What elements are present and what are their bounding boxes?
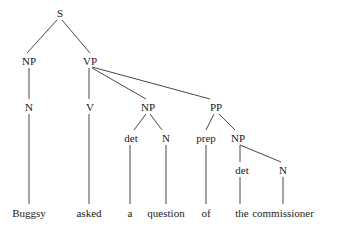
tree-nodes: SNPVPNVNPPPdetNprepNPdetNBuggsyaskedaque… [12,7,314,219]
node-PP: PP [210,101,222,113]
node-w6: the [235,207,249,219]
node-NP2: NP [141,101,155,113]
node-N2: N [162,132,170,144]
node-det2: det [235,164,248,176]
edge-NP2-N2 [150,114,162,130]
edge-S-VP [62,20,90,53]
node-prep: prep [196,132,216,144]
edge-VP-PP [92,67,210,99]
node-w1: Buggsy [12,207,46,219]
edge-S-NP1 [27,20,57,53]
edge-VP-NP2 [92,68,146,99]
edge-NP2-det1 [134,114,146,130]
edge-PP-NP3 [219,114,235,130]
node-det1: det [124,132,137,144]
node-S: S [57,7,63,19]
node-w3: a [128,207,133,219]
node-w7: commissioner [252,207,314,219]
edge-NP3-N3 [240,145,281,162]
syntax-tree-diagram: SNPVPNVNPPPdetNprepNPdetNBuggsyaskedaque… [0,0,350,233]
node-w2: asked [76,207,102,219]
node-N3: N [279,164,287,176]
node-N1: N [25,101,33,113]
node-w4: question [147,207,185,219]
node-w5: of [201,207,211,219]
node-V: V [86,101,94,113]
node-NP3: NP [231,132,245,144]
node-NP1: NP [22,55,36,67]
edge-PP-prep [206,114,214,130]
node-VP: VP [83,55,97,67]
